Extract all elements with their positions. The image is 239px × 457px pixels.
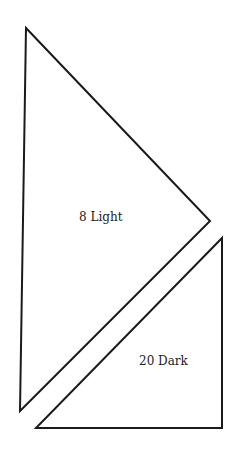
quilt-pattern-diagram — [0, 0, 239, 457]
dark-triangle-label: 20 Dark — [139, 354, 188, 368]
light-triangle-label: 8 Light — [79, 210, 123, 224]
